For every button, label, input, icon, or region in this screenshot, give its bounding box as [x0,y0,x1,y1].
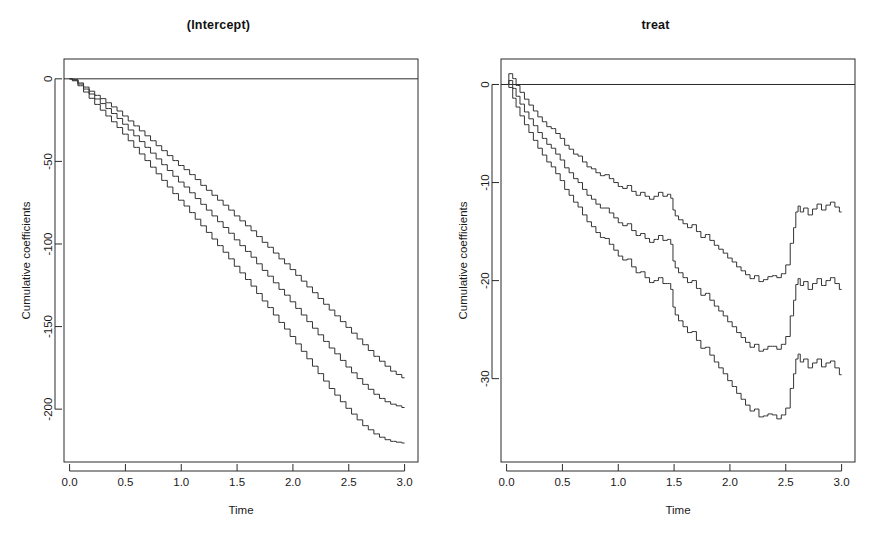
y-tick-label: 0 [42,76,54,82]
x-tick-label: 0.5 [117,476,133,488]
y-tick-label: -30 [479,370,491,387]
x-tick-label: 0.0 [499,476,515,488]
plot-frame [501,59,855,462]
y-tick-label: -150 [42,315,54,338]
y-tick-label: -20 [479,272,491,289]
x-tick-label: 1.0 [610,476,626,488]
y-tick-label: -10 [479,174,491,191]
x-tick-label: 2.5 [778,476,794,488]
plot-frame [64,59,418,462]
series-line-upper-confidence-band [507,74,842,282]
y-axis-title: Cumulative coefficients [457,201,469,319]
series-line-upper-confidence-band [70,79,405,378]
series-line-lower-confidence-band [70,79,405,443]
y-tick-label: -100 [42,232,54,255]
x-tick-label: 1.0 [173,476,189,488]
panel-intercept: (Intercept) 0-50-100-150-2000.00.51.01.5… [0,0,437,541]
x-tick-label: 0.0 [62,476,78,488]
series-line-estimate [70,79,405,408]
series-line-lower-confidence-band [507,84,842,418]
figure-canvas: (Intercept) 0-50-100-150-2000.00.51.01.5… [0,0,874,541]
y-axis-title: Cumulative coefficients [20,201,32,319]
x-tick-label: 1.5 [229,476,245,488]
x-tick-label: 1.5 [666,476,682,488]
x-tick-label: 3.0 [397,476,413,488]
x-axis-title: Time [228,504,253,516]
y-tick-label: 0 [479,81,491,87]
x-tick-label: 3.0 [834,476,850,488]
x-tick-label: 2.0 [722,476,738,488]
x-tick-label: 0.5 [554,476,570,488]
plot-area-intercept: 0-50-100-150-2000.00.51.01.52.02.53.0Tim… [0,0,437,541]
x-tick-label: 2.0 [285,476,301,488]
plot-area-treat: 0-10-20-300.00.51.01.52.02.53.0TimeCumul… [437,0,874,541]
y-tick-label: -200 [42,398,54,421]
series-line-estimate [507,81,842,352]
y-tick-label: -50 [42,153,54,170]
panel-treat: treat 0-10-20-300.00.51.01.52.02.53.0Tim… [437,0,874,541]
x-axis-title: Time [665,504,690,516]
x-tick-label: 2.5 [341,476,357,488]
